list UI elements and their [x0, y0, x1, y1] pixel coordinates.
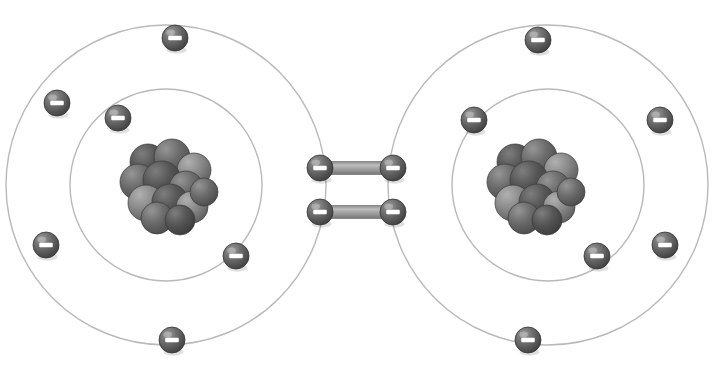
- electron-highlight: [651, 111, 660, 117]
- nucleon: [165, 205, 195, 235]
- minus-sign-icon: [111, 116, 125, 120]
- minus-sign-icon: [386, 210, 400, 214]
- electron-highlight: [311, 159, 320, 165]
- left-outer-electron-top: [162, 25, 188, 54]
- upper-bond-electron-right: [380, 155, 406, 184]
- right-outer-electron-top: [525, 27, 551, 56]
- left-inner-electron-lower-right: [223, 243, 249, 272]
- lower-bond-electron-right: [380, 199, 406, 228]
- left-outer-electron-lower-left: [33, 232, 59, 261]
- left-outer-electron-bottom: [159, 327, 185, 356]
- diagram-canvas: [0, 0, 718, 383]
- electron-highlight: [37, 236, 46, 242]
- right-nucleus: [487, 139, 585, 235]
- right-inner-electron-upper-left: [461, 107, 487, 136]
- minus-sign-icon: [521, 338, 535, 342]
- left-inner-electron-upper-left: [105, 105, 131, 134]
- minus-sign-icon: [50, 101, 64, 105]
- lower-bond-electron-left: [307, 199, 333, 228]
- right-outer-electron-bottom: [515, 327, 541, 356]
- minus-sign-icon: [168, 36, 182, 40]
- upper-bond-electron-left: [307, 155, 333, 184]
- electron-highlight: [109, 109, 118, 115]
- minus-sign-icon: [39, 243, 53, 247]
- right-outer-electron-lower-right: [652, 232, 678, 261]
- minus-sign-icon: [229, 254, 243, 258]
- left-outer-electron-upper-left: [44, 90, 70, 119]
- electron-highlight: [529, 31, 538, 37]
- right-outer-electron-right: [647, 107, 673, 136]
- electron-highlight: [588, 247, 597, 253]
- minus-sign-icon: [590, 254, 604, 258]
- nucleon: [532, 205, 562, 235]
- nuclei-group: [120, 139, 585, 235]
- minus-sign-icon: [531, 38, 545, 42]
- electron-highlight: [656, 236, 665, 242]
- electron-highlight: [384, 203, 393, 209]
- left-nucleus: [120, 139, 218, 235]
- electron-highlight: [166, 29, 175, 35]
- minus-sign-icon: [653, 118, 667, 122]
- electron-highlight: [465, 111, 474, 117]
- atomic-bond-diagram: [0, 0, 718, 383]
- electron-highlight: [384, 159, 393, 165]
- nucleon: [190, 178, 218, 206]
- electron-highlight: [311, 203, 320, 209]
- minus-sign-icon: [386, 166, 400, 170]
- electron-highlight: [227, 247, 236, 253]
- right-inner-electron-lower-right: [584, 243, 610, 272]
- minus-sign-icon: [313, 210, 327, 214]
- minus-sign-icon: [467, 118, 481, 122]
- orbit-shells-group: [6, 25, 708, 345]
- minus-sign-icon: [165, 338, 179, 342]
- minus-sign-icon: [658, 243, 672, 247]
- minus-sign-icon: [313, 166, 327, 170]
- electron-highlight: [519, 331, 528, 337]
- electron-highlight: [163, 331, 172, 337]
- electron-highlight: [48, 94, 57, 100]
- nucleon: [557, 178, 585, 206]
